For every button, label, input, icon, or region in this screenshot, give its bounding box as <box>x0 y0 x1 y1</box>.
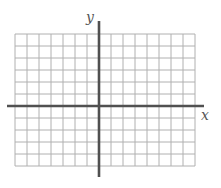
y-axis-label: y <box>86 10 94 24</box>
grid-lines <box>15 34 195 166</box>
coordinate-plane <box>0 0 221 188</box>
x-axis-label: x <box>201 108 209 122</box>
